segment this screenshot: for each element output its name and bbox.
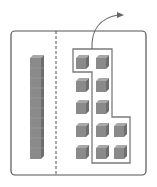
unit-cubes [76, 55, 127, 159]
base-ten-diagram [0, 0, 157, 187]
ten-rod [30, 55, 44, 159]
